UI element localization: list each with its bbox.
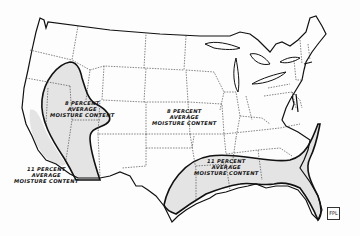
zone-label-line: MOISTURE CONTENT xyxy=(14,178,79,184)
zone-label-pacific-11: 11 PERCENT AVERAGE MOISTURE CONTENT xyxy=(14,166,79,184)
zone-label-southeast-11: 11 PERCENT AVERAGE MOISTURE CONTENT xyxy=(194,158,259,176)
zone-label-line: MOISTURE CONTENT xyxy=(194,170,259,176)
great-lakes xyxy=(205,42,300,92)
zone-label-line: MOISTURE CONTENT xyxy=(152,120,217,126)
zone-label-west-8: 8 PERCENT AVERAGE MOISTURE CONTENT xyxy=(50,100,115,118)
zone-label-line: MOISTURE CONTENT xyxy=(50,112,115,118)
moisture-content-map: 8 PERCENT AVERAGE MOISTURE CONTENT 8 PER… xyxy=(0,0,360,236)
zone-label-central-8: 8 PERCENT AVERAGE MOISTURE CONTENT xyxy=(152,108,217,126)
publisher-stamp-icon: FPL xyxy=(327,207,340,220)
